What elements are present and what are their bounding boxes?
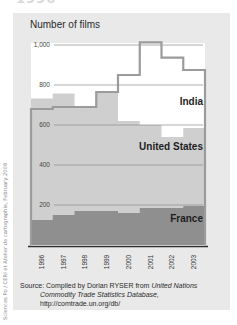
y-tick-label: 400 [39, 161, 50, 168]
source-note: Source: Compiled by Dorian RYSER from Un… [20, 281, 230, 308]
source-url: http://comtrade.un.org/db/ [20, 299, 230, 308]
x-tick-label: 1996 [38, 254, 45, 269]
x-tick-label: 1999 [103, 254, 110, 269]
x-tick-label: 2002 [168, 254, 175, 269]
x-tick-label: 2003 [190, 254, 197, 269]
x-axis-labels: 19961997199819992000200120022003 [38, 254, 197, 269]
source-italic-2: Commodity Trade Statistics Database, [40, 291, 159, 298]
france-label: France [170, 213, 203, 224]
x-tick-label: 2001 [147, 254, 154, 269]
united-states-label: United States [139, 141, 203, 152]
y-tick-label: 200 [39, 201, 50, 208]
source-prefix: Source: Compiled by Dorian RYSER from [20, 282, 151, 289]
y-tick-label: 1,000 [34, 41, 51, 48]
source-italic-1: United Nations [151, 282, 197, 289]
x-tick-label: 1998 [81, 254, 88, 269]
india-label: India [180, 96, 204, 107]
y-tick-label: 600 [39, 121, 50, 128]
x-tick-label: 1997 [60, 254, 67, 269]
chart-plot: 2004006008001,000 1996199719981999200020… [0, 0, 237, 325]
y-tick-label: 800 [39, 81, 50, 88]
x-tick-label: 2000 [125, 254, 132, 269]
